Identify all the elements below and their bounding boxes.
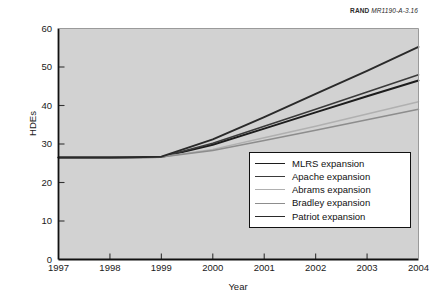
legend-item[interactable]: Bradley expansion <box>255 197 404 210</box>
legend-label: Apache expansion <box>292 172 370 182</box>
plot-area <box>0 0 438 301</box>
chart-legend: MLRS expansionApache expansionAbrams exp… <box>249 152 411 228</box>
legend-swatch-icon <box>255 203 285 204</box>
legend-label: Bradley expansion <box>292 198 370 208</box>
legend-swatch-icon <box>255 189 285 190</box>
legend-swatch-icon <box>255 216 285 217</box>
legend-label: MLRS expansion <box>292 159 364 169</box>
legend-item[interactable]: Abrams expansion <box>255 183 404 196</box>
legend-swatch-icon <box>255 163 285 164</box>
legend-swatch-icon <box>255 176 285 177</box>
legend-item[interactable]: Patriot expansion <box>255 210 404 223</box>
legend-item[interactable]: MLRS expansion <box>255 157 404 170</box>
legend-label: Abrams expansion <box>292 185 371 195</box>
legend-item[interactable]: Apache expansion <box>255 170 404 183</box>
legend-label: Patriot expansion <box>292 212 365 222</box>
chart-figure: RANDMR1190-A-3.16 HDEs Year 010203040506… <box>0 0 438 301</box>
